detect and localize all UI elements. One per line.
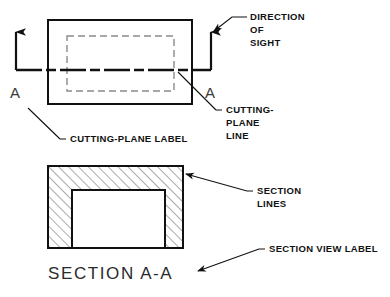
- section-lines-annotation: SECTION LINES: [186, 174, 301, 209]
- section-view-diagram: A A DIRECTION OF SIGHT CUTTING- PLANE LI…: [0, 0, 390, 297]
- cutting-plane-label-annotation: CUTTING-PLANE LABEL: [28, 108, 188, 144]
- section-view-label-leader: [198, 249, 265, 271]
- cutting-plane-line-label-1: CUTTING-: [226, 104, 274, 115]
- section-inner-opening-outline: [72, 190, 165, 248]
- section-lines-label-2: LINES: [257, 198, 286, 209]
- direction-of-sight-leader: [214, 17, 247, 31]
- section-title-label: SECTION A-A: [48, 264, 173, 283]
- section-hatched-material: [48, 166, 183, 248]
- section-view-label-annotation: SECTION VIEW LABEL: [198, 243, 378, 271]
- section-lines-leader: [186, 174, 253, 191]
- section-lines-label-1: SECTION: [257, 185, 301, 196]
- cutting-plane-label-leader: [28, 108, 66, 139]
- cutting-plane-letter-left: A: [10, 84, 20, 101]
- section-view-group: [48, 166, 183, 248]
- section-view-label-text: SECTION VIEW LABEL: [269, 243, 378, 254]
- direction-of-sight-line-1: DIRECTION: [250, 11, 305, 22]
- cutting-plane-line-label-2: PLANE: [226, 117, 260, 128]
- direction-of-sight-line-3: SIGHT: [250, 37, 281, 48]
- direction-of-sight-line-2: OF: [250, 24, 264, 35]
- front-view-group: A A: [10, 20, 215, 104]
- hidden-feature-rectangle: [67, 36, 174, 91]
- direction-of-sight-annotation: DIRECTION OF SIGHT: [214, 11, 305, 48]
- cutting-plane-line-label-3: LINE: [226, 130, 249, 141]
- technical-drawing-canvas: A A DIRECTION OF SIGHT CUTTING- PLANE LI…: [0, 0, 390, 297]
- cutting-plane-label-text: CUTTING-PLANE LABEL: [70, 133, 188, 144]
- cutting-plane-letter-right: A: [205, 84, 215, 101]
